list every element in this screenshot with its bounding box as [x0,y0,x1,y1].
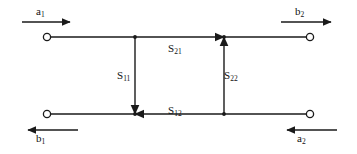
signal-flow-diagram: a1 b2 b1 a2 S21 S11 S22 S12 [0,0,357,154]
label-s12-subscript: 12 [174,109,182,118]
label-s22: S22 [224,70,238,81]
label-a2: a2 [297,133,306,144]
label-s11-subscript: 11 [123,74,130,83]
label-a2-subscript: 2 [302,137,306,146]
node-a2 [306,110,313,117]
diagram-canvas [0,0,357,154]
label-b1: b1 [36,133,45,144]
label-b2-subscript: 2 [301,10,305,19]
label-b1-symbol: b [36,132,42,144]
junction-top-right [222,35,226,39]
junction-top-left [133,35,137,39]
label-s21: S21 [168,43,182,54]
label-b1-subscript: 1 [42,137,46,146]
junction-bottom-right [222,112,226,116]
label-s21-subscript: 21 [174,47,182,56]
label-s22-subscript: 22 [230,74,238,83]
node-b1 [43,110,50,117]
label-s11: S11 [117,70,130,81]
label-b2: b2 [295,6,304,17]
junction-bottom-left [133,112,137,116]
node-b2 [306,33,313,40]
label-a1: a1 [36,6,45,17]
node-a1 [43,33,50,40]
label-b2-symbol: b [295,5,301,17]
label-s12: S12 [168,105,182,116]
label-a1-subscript: 1 [41,10,45,19]
